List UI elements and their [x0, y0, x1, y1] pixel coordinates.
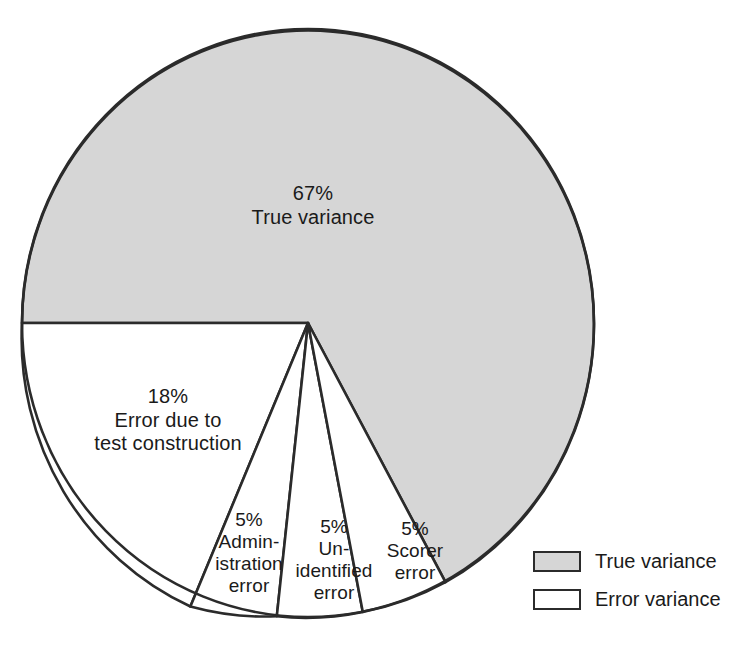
legend-label-error-variance: Error variance: [595, 588, 721, 611]
legend-item-true-variance: True variance: [533, 546, 721, 576]
pie-chart-figure: 67% True variance 18% Error due to test …: [0, 0, 736, 650]
legend-item-error-variance: Error variance: [533, 584, 721, 614]
slice-label-test-construction: 18% Error due to test construction: [73, 385, 263, 456]
legend-swatch-error-variance: [533, 589, 581, 610]
slice-label-scorer-error: 5% Scorer error: [366, 518, 464, 584]
slice-label-true-variance: 67% True variance: [238, 182, 388, 229]
legend-swatch-true-variance: [533, 551, 581, 572]
legend-label-true-variance: True variance: [595, 550, 717, 573]
chart-legend: True variance Error variance: [533, 546, 721, 622]
